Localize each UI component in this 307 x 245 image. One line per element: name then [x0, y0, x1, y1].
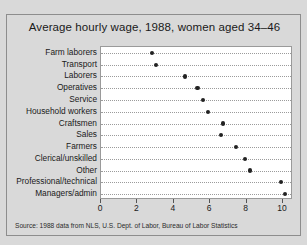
- gridline: [101, 182, 291, 183]
- category-label: Other: [7, 165, 97, 175]
- category-label: Laborers: [7, 70, 97, 80]
- category-label: Managers/admin: [7, 188, 97, 198]
- gridline: [101, 194, 291, 195]
- category-label: Household workers: [7, 106, 97, 116]
- gridline: [101, 171, 291, 172]
- gridline: [101, 112, 291, 113]
- data-point: [206, 110, 210, 114]
- x-tick-label: 2: [134, 203, 139, 213]
- gridline: [101, 100, 291, 101]
- data-point: [248, 168, 252, 172]
- gridline: [101, 65, 291, 66]
- plot-panel: [100, 46, 292, 199]
- x-tick-label: 8: [243, 203, 248, 213]
- data-point: [283, 192, 287, 196]
- gridline: [101, 135, 291, 136]
- data-point: [195, 86, 199, 90]
- category-label: Craftsmen: [7, 118, 97, 128]
- x-tick-label: 10: [277, 203, 286, 213]
- category-label: Clerical/unskilled: [7, 153, 97, 163]
- category-label: Operatives: [7, 82, 97, 92]
- gridline: [101, 53, 291, 54]
- category-label: Farm laborers: [7, 47, 97, 57]
- data-point: [234, 145, 238, 149]
- source-note: Source: 1988 data from NLS, U.S. Dept. o…: [15, 222, 237, 229]
- category-label: Transport: [7, 59, 97, 69]
- chart-title: Average hourly wage, 1988, women aged 34…: [7, 21, 302, 33]
- data-point: [183, 74, 187, 78]
- x-axis: 0246810: [100, 199, 292, 217]
- y-axis-category-labels: Farm laborersTransportLaborersOperatives…: [7, 46, 97, 199]
- plot-area: [101, 47, 291, 198]
- category-label: Sales: [7, 129, 97, 139]
- data-point: [221, 121, 225, 125]
- category-label: Professional/technical: [7, 176, 97, 186]
- gridline: [101, 159, 291, 160]
- category-label: Farmers: [7, 141, 97, 151]
- gridline: [101, 76, 291, 77]
- x-tick-label: 6: [207, 203, 212, 213]
- data-point: [150, 51, 154, 55]
- data-point: [154, 63, 158, 67]
- gridline: [101, 124, 291, 125]
- chart-figure: Average hourly wage, 1988, women aged 34…: [6, 14, 301, 236]
- data-point: [243, 157, 247, 161]
- category-label: Service: [7, 94, 97, 104]
- x-tick-label: 0: [98, 203, 103, 213]
- data-point: [219, 133, 223, 137]
- gridline: [101, 147, 291, 148]
- data-point: [279, 180, 283, 184]
- x-tick-label: 4: [170, 203, 175, 213]
- data-point: [201, 98, 205, 102]
